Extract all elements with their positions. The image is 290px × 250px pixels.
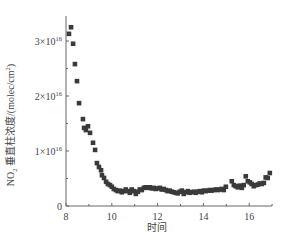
axes [66, 16, 272, 206]
data-point [241, 183, 246, 188]
x-tick-label: 12 [153, 211, 163, 222]
data-points [67, 25, 272, 196]
y-tick-label: 2×1016 [35, 90, 63, 102]
data-point [67, 32, 72, 37]
data-point [71, 41, 76, 46]
no2-scatter-chart: 81012141601×10162×10163×1016时间NO2 垂直柱浓度/… [0, 0, 290, 250]
y-axis-title: NO2 垂直柱浓度/(molec/cm2) [4, 64, 18, 186]
data-point [81, 117, 86, 122]
x-tick-label: 16 [244, 211, 254, 222]
x-tick-label: 14 [198, 211, 208, 222]
data-point [91, 140, 96, 145]
x-axis-title: 时间 [147, 221, 167, 233]
data-point [265, 176, 270, 181]
x-tick-label: 8 [64, 211, 69, 222]
x-tick-label: 10 [107, 211, 117, 222]
data-point [224, 184, 229, 189]
y-tick-label: 0 [57, 201, 62, 212]
data-point [86, 124, 91, 129]
y-tick-label: 3×1016 [35, 35, 63, 47]
data-point [243, 174, 248, 179]
data-point [88, 131, 93, 136]
data-point [262, 181, 267, 186]
y-tick-label: 1×1016 [35, 145, 63, 157]
data-point [99, 168, 104, 173]
data-point [73, 62, 78, 67]
data-point [268, 171, 273, 176]
data-point [93, 148, 98, 153]
data-point [75, 79, 80, 84]
axis-labels: 81012141601×10162×10163×1016时间NO2 垂直柱浓度/… [4, 35, 254, 234]
data-point [69, 25, 74, 30]
data-point [77, 101, 82, 106]
